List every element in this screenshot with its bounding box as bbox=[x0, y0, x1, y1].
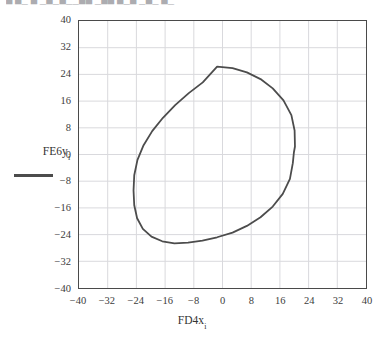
plot-figure: FE6yi 4032241680−8−16−24−32−40 −40−32−24… bbox=[0, 0, 384, 337]
plot-area bbox=[78, 20, 367, 289]
x-axis-title: FD4xi bbox=[0, 314, 384, 329]
x-tick-label: 40 bbox=[350, 295, 384, 306]
x-axis-title-main: FD4x bbox=[178, 314, 204, 326]
y-tick-label: 32 bbox=[41, 41, 71, 52]
y-tick-label: 40 bbox=[41, 14, 71, 25]
y-tick-label: −40 bbox=[41, 283, 71, 294]
y-tick-label: −16 bbox=[41, 202, 71, 213]
y-tick-label: 8 bbox=[41, 122, 71, 133]
y-tick-label: −8 bbox=[41, 175, 71, 186]
data-curve bbox=[79, 21, 366, 288]
y-tick-label: 24 bbox=[41, 68, 71, 79]
y-tick-label: 0 bbox=[41, 149, 71, 160]
y-tick-label: −24 bbox=[41, 229, 71, 240]
y-tick-label: 16 bbox=[41, 95, 71, 106]
y-tick-label: −32 bbox=[41, 256, 71, 267]
x-axis-title-subscript: i bbox=[204, 322, 206, 331]
